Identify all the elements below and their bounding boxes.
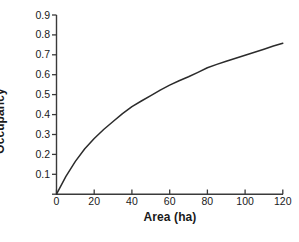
x-tick-label: 60: [150, 196, 190, 207]
occupancy-area-chart: Occupancy: [0, 0, 299, 242]
x-tick-label: 40: [112, 196, 152, 207]
x-tick-label: 120: [263, 196, 299, 207]
x-tick-label: 80: [187, 196, 227, 207]
x-tick-label: 20: [74, 196, 114, 207]
x-axis-title: Area (ha): [57, 211, 283, 223]
x-tick-label-group: 020406080100120: [0, 0, 299, 242]
x-tick-label: 0: [37, 196, 77, 207]
x-tick-label: 100: [225, 196, 265, 207]
caption-fragment: [0, 236, 299, 242]
